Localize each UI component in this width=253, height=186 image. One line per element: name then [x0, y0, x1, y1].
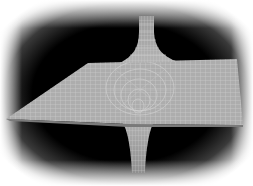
wormhole-render [0, 0, 253, 186]
vignette-top [0, 0, 253, 28]
vignette-bottom [0, 160, 253, 186]
wormhole-mesh-illustration [0, 0, 253, 186]
